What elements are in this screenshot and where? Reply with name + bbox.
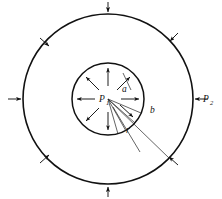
label-inner-pressure: P <box>98 94 105 104</box>
external-arrow-lower-right <box>169 157 178 165</box>
fan-line-1 <box>108 99 141 113</box>
pressure-vessel-diagram: P 1 P 2 a b r <box>0 0 222 199</box>
fan-line-2 <box>108 99 135 123</box>
figure-container: P 1 P 2 a b r <box>0 0 222 199</box>
label-outer-pressure: P <box>202 94 209 104</box>
label-inner-radius: a <box>122 84 127 94</box>
label-outer-pressure-subscript: 2 <box>210 99 214 106</box>
label-variable-radius: r <box>126 125 130 135</box>
internal-arrow-upper-left <box>86 77 99 90</box>
label-outer-radius: b <box>150 105 155 115</box>
label-inner-pressure-subscript: 1 <box>106 99 109 106</box>
internal-arrow-lower-left <box>86 108 99 121</box>
fan-line-3 <box>108 99 126 131</box>
external-arrow-upper-right <box>170 33 178 41</box>
diagram-labels: P 1 P 2 a b r <box>98 84 214 135</box>
